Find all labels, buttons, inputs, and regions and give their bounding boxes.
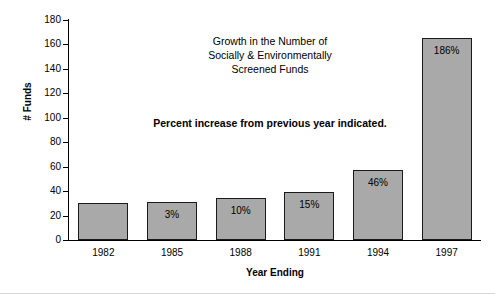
y-tick-label: 80 [3,137,61,147]
y-tick-label: 140 [3,64,61,74]
bar-percent-label-1991: 15% [284,199,334,210]
y-tick-label: 100 [3,113,61,123]
y-tick-label: 120 [3,88,61,98]
y-tick-mark [63,240,69,241]
bar-1985[interactable] [147,202,197,240]
x-tick-label-1985: 1985 [142,247,202,258]
y-tick-label: 20 [3,211,61,221]
x-tick-label-1991: 1991 [279,247,339,258]
bar-percent-label-1994: 46% [353,177,403,188]
x-axis-title: Year Ending [69,267,481,278]
percent-increase-note: Percent increase from previous year indi… [110,117,430,129]
bar-1982[interactable] [78,203,128,240]
x-axis-line [68,240,481,241]
x-tick-label-1997: 1997 [417,247,477,258]
chart-title-line-3: Screened Funds [170,62,370,76]
bar-percent-label-1988: 10% [216,205,266,216]
bar-percent-label-1997: 186% [422,45,472,56]
chart-title-line-1: Growth in the Number of [170,34,370,48]
y-tick-label: 160 [3,39,61,49]
bar-1997[interactable] [422,38,472,240]
x-tick-label-1982: 1982 [73,247,133,258]
bar-group[interactable] [78,20,128,240]
y-tick-label: 0 [3,235,61,245]
y-tick-label: 40 [3,186,61,196]
chart-title-line-2: Socially & Environmentally [170,48,370,62]
bar-chart-figure: # Funds 020406080100120140160180 3%10%15… [0,0,495,294]
x-tick-label-1988: 1988 [211,247,271,258]
bar-group[interactable]: 186% [422,20,472,240]
y-tick-label: 60 [3,162,61,172]
bar-percent-label-1985: 3% [147,209,197,220]
x-tick-label-1994: 1994 [348,247,408,258]
chart-title: Growth in the Number of Socially & Envir… [170,34,370,76]
y-tick-label: 180 [3,15,61,25]
